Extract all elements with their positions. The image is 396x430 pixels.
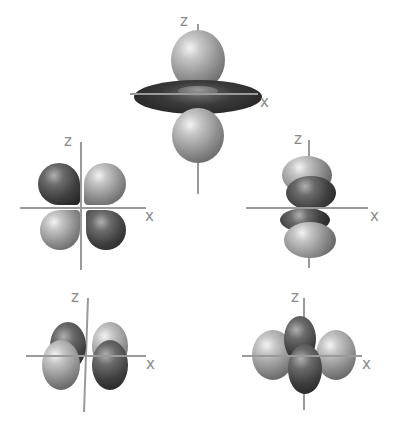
x-axis-label: x xyxy=(362,357,371,372)
lower-right-lobe xyxy=(86,210,126,250)
x-axis-label: x xyxy=(146,357,155,372)
z-axis-label: z xyxy=(64,134,72,149)
front-lobe xyxy=(288,344,322,394)
x-axis-label: x xyxy=(370,209,379,224)
front-lower-lobe xyxy=(284,222,336,258)
orbital-dyz: z x xyxy=(220,120,396,280)
upper-right-lobe xyxy=(84,163,126,205)
front-right-lobe xyxy=(92,340,128,390)
z-axis-label: z xyxy=(71,290,79,305)
x-axis-label: x xyxy=(260,95,269,110)
x-axis xyxy=(246,207,368,209)
upper-left-lobe xyxy=(38,163,80,205)
z-axis xyxy=(80,142,82,270)
z-axis-label: z xyxy=(291,290,299,305)
lower-left-lobe xyxy=(40,210,80,250)
z-axis-label: z xyxy=(180,14,188,29)
front-left-lobe xyxy=(42,340,80,390)
x-axis xyxy=(20,207,146,209)
orbital-dxz: z x xyxy=(0,120,180,280)
orbital-dxy: z x xyxy=(0,280,200,430)
front-upper-lobe xyxy=(286,176,336,210)
x-axis xyxy=(242,355,362,357)
x-axis xyxy=(130,93,258,95)
orbital-dx2-y2: z x xyxy=(220,280,396,430)
x-axis-label: x xyxy=(145,209,154,224)
z-axis-label: z xyxy=(294,132,302,147)
x-axis xyxy=(26,355,146,357)
